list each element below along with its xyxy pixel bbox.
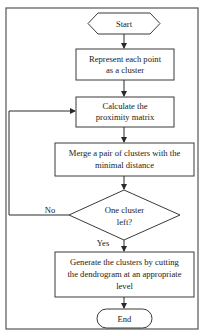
represent-label-line1: Represent each point (89, 54, 162, 64)
end-label: End (118, 314, 133, 324)
start-label: Start (116, 19, 133, 29)
end-node: End (97, 309, 152, 328)
generate-node: Generate the clusters by cutting the den… (55, 252, 194, 297)
decision-node: One cluster left? (69, 190, 180, 240)
no-label: No (45, 205, 56, 215)
merge-node: Merge a pair of clusters with the minima… (55, 143, 194, 176)
proximity-label-line2: proximity matrix (96, 112, 155, 122)
merge-label-line1: Merge a pair of clusters with the (69, 148, 181, 158)
represent-node: Represent each point as a cluster (76, 49, 174, 80)
merge-label-line2: minimal distance (95, 160, 154, 170)
flowchart-canvas: Start Represent each point as a cluster … (0, 0, 203, 334)
proximity-node: Calculate the proximity matrix (76, 97, 174, 127)
decision-label-line1: One cluster (105, 205, 145, 215)
yes-label: Yes (97, 238, 110, 248)
represent-label-line2: as a cluster (106, 65, 144, 75)
generate-label-line3: level (116, 281, 133, 291)
generate-label-line2: the dendrogram at an appropriate (67, 269, 181, 279)
decision-label-line2: left? (117, 217, 132, 227)
generate-label-line1: Generate the clusters by cutting (70, 257, 180, 267)
proximity-label-line1: Calculate the (102, 101, 147, 111)
start-node: Start (88, 13, 160, 34)
